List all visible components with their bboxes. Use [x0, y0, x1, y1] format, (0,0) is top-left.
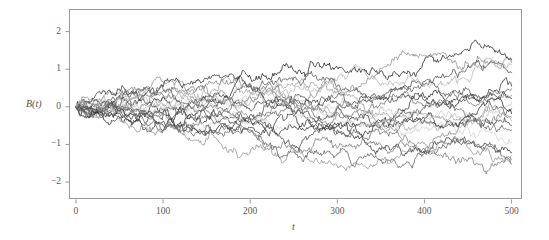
y-tick-label: −2 [37, 177, 61, 187]
plot-frame [70, 10, 522, 199]
plot-frame-group [70, 10, 522, 199]
brownian-motion-figure: −2−1012 0100200300400500 B(t) t [0, 0, 549, 240]
x-tick-label: 400 [404, 207, 444, 217]
x-tick-label: 0 [56, 207, 96, 217]
y-tick-label: −1 [37, 139, 61, 149]
x-tick-label: 200 [230, 207, 270, 217]
x-tick-label: 100 [143, 207, 183, 217]
chart-canvas [0, 0, 549, 240]
y-tick-label: 1 [37, 64, 61, 74]
y-tick-label: 2 [37, 27, 61, 37]
y-axis-title: B(t) [26, 99, 42, 109]
x-tick-label: 500 [492, 207, 532, 217]
x-axis-title: t [292, 222, 295, 232]
x-tick-label: 300 [317, 207, 357, 217]
